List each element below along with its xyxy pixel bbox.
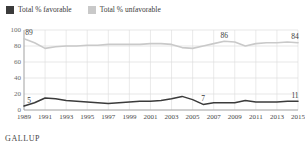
x-axis-tick-label: 2009 [228, 113, 243, 121]
x-axis-tick-label: 2011 [249, 113, 263, 121]
data-point-label: 89 [25, 28, 33, 37]
legend-swatch-icon [88, 6, 96, 14]
x-axis-tick-label: 1999 [122, 113, 137, 121]
y-axis-tick-label: 60 [14, 58, 22, 66]
x-axis-tick-label: 1989 [17, 113, 32, 121]
data-point-label: 5 [27, 96, 31, 105]
x-axis-tick-label: 2013 [270, 113, 285, 121]
data-point-label: 7 [201, 94, 205, 103]
gallup-line-chart: Total % favorable Total % unfavorable 02… [0, 0, 305, 148]
x-axis-tick-label: 2001 [143, 113, 158, 121]
y-axis-tick-label: 80 [14, 42, 22, 50]
chart-legend: Total % favorable Total % unfavorable [6, 3, 161, 16]
y-axis-tick-label: 20 [14, 90, 22, 98]
x-axis-tick-label: 1997 [101, 113, 116, 121]
x-axis-tick-label: 1995 [80, 113, 95, 121]
x-axis-tick-label: 1993 [59, 113, 74, 121]
x-axis-tick-label: 2005 [186, 113, 201, 121]
data-point-label: 86 [220, 31, 228, 40]
plot-area: 0204060801001989199119931995199719992001… [0, 22, 305, 126]
legend-label-unfavorable: Total % unfavorable [100, 5, 161, 14]
x-axis-tick-label: 2007 [207, 113, 222, 121]
data-point-label: 11 [291, 91, 298, 100]
legend-swatch-icon [6, 6, 14, 14]
series-line-unfavorable [24, 39, 298, 49]
x-axis-tick-label: 2003 [165, 113, 180, 121]
legend-label-favorable: Total % favorable [18, 5, 72, 14]
legend-item-unfavorable: Total % unfavorable [88, 3, 161, 16]
legend-item-favorable: Total % favorable [6, 3, 72, 16]
y-axis-tick-label: 100 [11, 26, 22, 34]
data-point-label: 84 [291, 32, 299, 41]
x-axis-tick-label: 2015 [291, 113, 305, 121]
x-axis-tick-label: 1991 [38, 113, 53, 121]
gallup-brand-label: GALLUP [5, 134, 40, 143]
series-line-favorable [24, 96, 298, 106]
chart-svg: 0204060801001989199119931995199719992001… [0, 22, 305, 126]
y-axis-tick-label: 40 [14, 74, 22, 82]
